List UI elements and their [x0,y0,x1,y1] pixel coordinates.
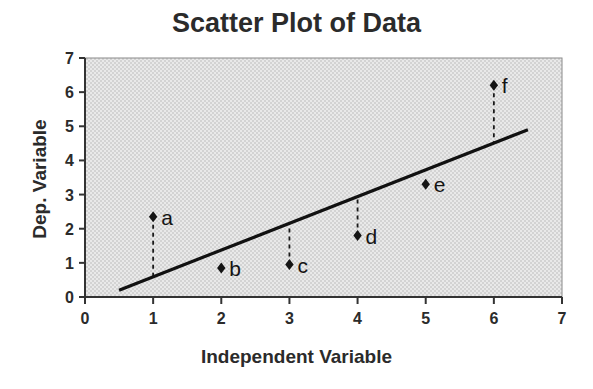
x-tick-label: 6 [489,310,498,327]
data-point-label: f [502,74,508,97]
y-tick-label: 7 [65,50,74,67]
y-tick-label: 4 [65,152,74,169]
data-point-label: c [297,254,308,277]
x-tick-label: 3 [285,310,294,327]
x-tick-label: 1 [149,310,158,327]
y-tick-label: 0 [65,289,74,306]
data-point-label: a [161,206,173,229]
data-point-label: b [229,257,241,280]
x-tick-label: 5 [421,310,430,327]
plot-background [85,58,562,297]
x-axis: 01234567 [81,297,567,327]
x-tick-label: 7 [558,310,567,327]
plot-canvas: 01234567 01234567 abcdef [0,0,593,389]
y-tick-label: 6 [65,84,74,101]
x-tick-label: 2 [217,310,226,327]
y-axis: 01234567 [65,50,85,306]
data-point-label: d [366,225,378,248]
x-tick-label: 4 [353,310,362,327]
y-tick-label: 5 [65,118,74,135]
data-point-label: e [434,173,446,196]
scatter-plot-figure: Scatter Plot of Data Dep. Variable 01234… [0,0,593,389]
y-tick-label: 3 [65,187,74,204]
x-tick-label: 0 [81,310,90,327]
y-tick-label: 2 [65,221,74,238]
y-tick-label: 1 [65,255,74,272]
x-axis-label: Independent Variable [0,346,593,368]
